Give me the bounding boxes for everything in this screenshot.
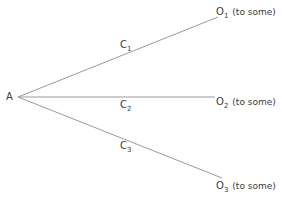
edge-label-1: C1 [120, 39, 131, 51]
outcome-3-text: O [216, 180, 224, 191]
edge-label-2-sub: 2 [127, 105, 131, 113]
outcome-3-note: (to some) [232, 181, 275, 191]
origin-label-text: A [6, 91, 13, 102]
branch-line-1 [18, 17, 218, 97]
outcome-2-text: O [216, 96, 224, 107]
outcome-2-note: (to some) [232, 97, 275, 107]
edge-label-3-text: C [120, 140, 127, 151]
outcome-2-sub: 2 [224, 102, 228, 110]
edge-label-1-sub: 1 [127, 45, 131, 53]
outcome-node-2: O2(to some) [216, 96, 276, 108]
outcome-3-sub: 3 [224, 186, 228, 194]
outcome-1-sub: 1 [224, 12, 228, 20]
edge-label-3-sub: 3 [127, 146, 131, 154]
edge-label-2-text: C [120, 99, 127, 110]
edge-label-3: C3 [120, 140, 131, 152]
outcome-1-text: O [216, 6, 224, 17]
outcome-node-1: O1(to some) [216, 6, 276, 18]
outcome-node-3: O3(to some) [216, 180, 276, 192]
edge-label-1-text: C [120, 39, 127, 50]
edge-label-2: C2 [120, 99, 131, 111]
outcome-1-note: (to some) [232, 7, 275, 17]
origin-node-label: A [6, 91, 13, 103]
